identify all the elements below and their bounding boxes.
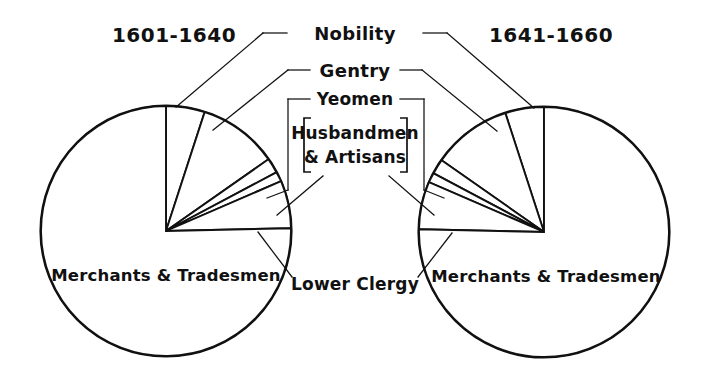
callout-label-husbandmen-line1: Husbandmen [291, 123, 419, 143]
right-period-label: 1641-1660 [489, 23, 613, 47]
left-period-label: 1601-1640 [112, 23, 236, 47]
right-pie-group: Merchants & Tradesmen [419, 107, 669, 357]
callout-label-lower-clergy: Lower Clergy [291, 274, 419, 294]
callout-label-nobility: Nobility [314, 23, 396, 44]
callout-label-yeomen: Yeomen [316, 89, 394, 109]
pie-pair-figure: Merchants & Tradesmen Merchants & Trades… [0, 0, 706, 391]
callout-label-gentry: Gentry [320, 60, 391, 81]
figure-root: Merchants & Tradesmen Merchants & Trades… [0, 0, 706, 391]
right-pie-inside-label: Merchants & Tradesmen [431, 267, 661, 286]
left-pie-inside-label: Merchants & Tradesmen [51, 266, 281, 285]
husbandmen-leaders [277, 176, 434, 215]
callout-label-husbandmen-line2: & Artisans [304, 147, 406, 167]
left-pie-group: Merchants & Tradesmen [41, 106, 291, 356]
